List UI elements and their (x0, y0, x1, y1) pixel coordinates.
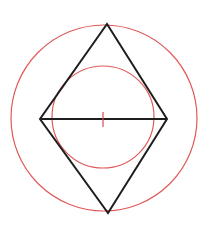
diagram-canvas (0, 0, 218, 226)
rhombus-circles-figure (0, 0, 218, 226)
